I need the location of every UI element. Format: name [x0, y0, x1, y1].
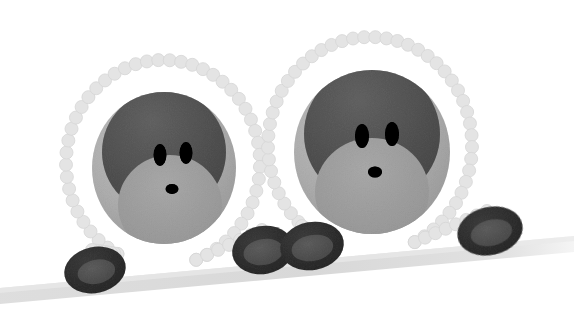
- chain-right-bead: [463, 117, 476, 130]
- chain-right-bead: [465, 129, 478, 142]
- chain-right-bead: [465, 152, 478, 165]
- chain-left-bead: [60, 170, 73, 183]
- chain-right-bead: [262, 153, 275, 166]
- chain-left-bead: [60, 158, 73, 171]
- chain-left-bead: [249, 124, 262, 137]
- nose-left: [166, 184, 179, 194]
- eye-right-1: [355, 124, 369, 148]
- chain-left-bead: [252, 173, 265, 186]
- chain-left-bead: [60, 146, 73, 159]
- chain-right-bead: [265, 165, 278, 178]
- chain-left-bead: [66, 194, 79, 207]
- chain-left-bead: [163, 54, 176, 67]
- chain-right-bead: [463, 164, 476, 177]
- chain-right-bead: [262, 129, 275, 142]
- eye-left-2: [180, 142, 193, 164]
- chain-left-bead: [140, 55, 153, 68]
- nose-right: [368, 167, 382, 178]
- chain-left-bead: [152, 54, 165, 67]
- eye-left-1: [154, 144, 167, 166]
- chain-right-bead: [262, 141, 275, 154]
- eye-right-2: [385, 122, 399, 146]
- chain-right-bead: [263, 118, 276, 131]
- scene-svg: [0, 0, 574, 314]
- chain-left-bead: [63, 182, 76, 195]
- chain-left-bead: [62, 134, 75, 147]
- illustration-canvas: [0, 0, 574, 314]
- chain-right-bead: [465, 141, 478, 154]
- chain-right-bead: [461, 106, 474, 119]
- chain-left-bead: [250, 184, 263, 197]
